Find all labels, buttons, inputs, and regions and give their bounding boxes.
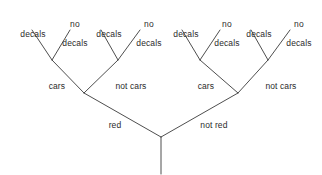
branch-text: red [109,120,122,130]
branch-label-red: red [99,111,121,140]
leaf-text: decals [246,29,271,39]
branch-text: cars [49,81,65,91]
branch-text: not cars [115,81,146,91]
leaf-label-decals-1: decals [10,20,45,49]
branch-text: not cars [265,81,296,91]
leaf-text: decals [96,29,121,39]
leaf-label-decals-2: decals [86,20,121,49]
leaf-text: decals [20,29,45,39]
leaf-text-line1: no [144,19,154,29]
branch-label-cars-right: cars [188,72,214,101]
leaf-label-decals-3: decals [163,20,198,49]
leaf-text-line1: no [70,19,80,29]
decision-tree-diagram: decals no decals decals no decals decals… [0,0,322,175]
leaf-text: decals [173,29,198,39]
branch-label-not-red: not red [190,111,227,140]
leaf-label-no-decals-4: no decals [276,10,311,58]
leaf-label-no-decals-1: no decals [52,10,87,58]
leaf-text-line2: decals [62,38,87,48]
branch-text: cars [198,81,214,91]
branch-label-not-cars-left: not cars [106,72,147,101]
branch-label-cars-left: cars [39,72,65,101]
leaf-text-line2: decals [286,38,311,48]
leaf-label-decals-4: decals [236,20,271,49]
leaf-label-no-decals-2: no decals [126,10,161,58]
leaf-text-line1: no [222,19,232,29]
leaf-text-line2: decals [136,38,161,48]
branch-label-not-cars-right: not cars [256,72,297,101]
branch-text: not red [200,120,227,130]
leaf-label-no-decals-3: no decals [204,10,239,58]
leaf-text-line1: no [294,19,304,29]
